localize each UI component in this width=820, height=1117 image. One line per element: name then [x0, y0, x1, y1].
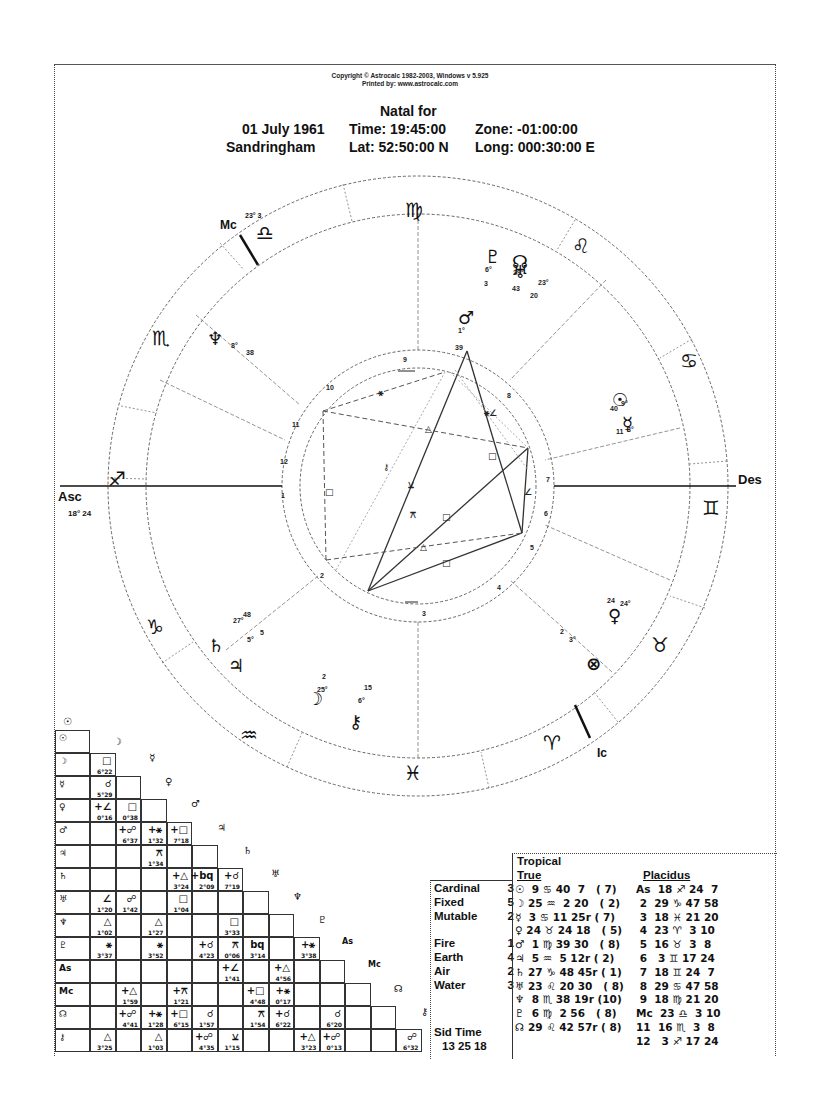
grid-header-moon: ☽ — [113, 736, 122, 747]
earth-label: Earth — [434, 951, 463, 965]
aspect-symbol: +☍ — [195, 1031, 214, 1042]
aspect-symbol: +☍ — [322, 1031, 341, 1042]
svg-text:24°: 24° — [620, 600, 631, 607]
svg-text:12: 12 — [280, 458, 288, 465]
aspect-grid-row-label: ♃ — [55, 845, 90, 868]
house-cusp-row: Mc 23 ♎ 3 10 — [636, 1007, 721, 1019]
house-cusp-row: 2 29 ♑ 47 58 — [636, 897, 719, 909]
aspect-grid-cell: ☍1°42 — [116, 891, 142, 914]
row-glyph: ♆ — [59, 917, 67, 927]
svg-text:4: 4 — [497, 584, 501, 591]
planet-position-row: ♂ 1 ♍ 39 30 ( 8) — [515, 938, 620, 950]
aspect-grid-row-label: ⚷ — [55, 1029, 90, 1052]
aspect-grid-cell: △1°02 — [90, 914, 116, 937]
aspect-orb: 7°19 — [224, 883, 240, 890]
aspect-symbol: ⚹ — [106, 939, 112, 951]
aspect-orb: 1°15 — [224, 1044, 240, 1051]
svg-text:⚺: ⚺ — [408, 480, 414, 490]
aspect-grid-cell — [167, 937, 193, 960]
aspect-symbol: ☍ — [407, 1031, 417, 1042]
aspect-symbol: +□ — [170, 1008, 188, 1019]
aspect-grid-row-label: ☊ — [55, 1006, 90, 1029]
aspect-grid-cell — [167, 845, 193, 868]
aspect-grid-cell: bq3°14 — [243, 937, 269, 960]
planet-glyphs: ♇ ☊ ♅ ♂ ♆ ☉ ☿ ♀ ⊗ ♄ ♃ ☽ ⚷ — [207, 246, 633, 732]
aspect-orb: 1°59 — [122, 998, 138, 1005]
aspect-grid-cell: ☌5°29 — [90, 776, 116, 799]
aspect-grid-cell: ☌6°20 — [320, 1006, 346, 1029]
aspect-orb: 4°48 — [250, 998, 266, 1005]
svg-text:2: 2 — [320, 572, 324, 579]
aspect-orb: 3°33 — [224, 929, 240, 936]
node-type: True — [517, 869, 541, 881]
aspect-grid-row-label: ♀ — [55, 799, 90, 822]
aspect-grid-cell: +⚹1°28 — [141, 1006, 167, 1029]
aspect-grid-cell: +⚹1°32 — [141, 822, 167, 845]
aspect-orb: 2°09 — [199, 883, 215, 890]
svg-text:♊: ♊ — [702, 496, 720, 520]
aspect-orb: 0°13 — [326, 1044, 342, 1051]
svg-text:□: □ — [442, 558, 451, 568]
aspect-symbol: +bq — [191, 870, 214, 881]
aspect-grid-cell: □6°22 — [90, 753, 116, 776]
svg-text:♄: ♄ — [208, 635, 224, 656]
aspect-symbol: ☌ — [207, 1008, 214, 1019]
svg-text:2: 2 — [560, 628, 564, 635]
grid-header-uranus: ♅ — [271, 868, 280, 879]
aspect-orb: 1°32 — [148, 837, 164, 844]
grid-header-mc: Mc — [368, 960, 381, 969]
aspect-orb: 1°21 — [173, 998, 189, 1005]
planet-position-row: ♃ 5 ♒ 5 12r ( 2) — [515, 952, 614, 964]
svg-text:□: □ — [325, 487, 334, 497]
aspect-symbol: ⚻ — [258, 1008, 265, 1020]
aspect-symbol: ☌ — [105, 778, 112, 789]
aspect-grid-cell — [192, 960, 218, 983]
svg-text:♃: ♃ — [228, 655, 244, 676]
svg-text:48: 48 — [243, 611, 251, 618]
aspect-grid-cell — [294, 1006, 320, 1029]
aspect-orb: 1°57 — [199, 1021, 215, 1028]
aspect-symbol: +∠ — [222, 962, 239, 973]
aspect-grid-cell — [141, 799, 167, 822]
aspect-grid-cell: ∠1°20 — [90, 891, 116, 914]
aspect-grid-cell: +△3°24 — [167, 868, 193, 891]
planet-position-row: ☽ 25 ♒ 2 20 ( 2) — [515, 897, 620, 909]
grid-header-venus: ♀ — [165, 776, 172, 787]
aspect-symbol: ∠ — [103, 893, 112, 904]
svg-text:23°: 23° — [538, 279, 549, 286]
aspect-orb: 0°16 — [97, 814, 113, 821]
aspect-grid-cell: +⚻1°21 — [167, 983, 193, 1006]
row-glyph: ♂ — [59, 825, 67, 835]
aspect-orb: 1°02 — [97, 929, 113, 936]
sid-time-label: Sid Time — [434, 1026, 482, 1038]
aspect-orb: 1°41 — [224, 975, 240, 982]
mc-label: Mc — [220, 218, 237, 232]
aspect-grid-cell: ⚹3°52 — [141, 937, 167, 960]
planet-position-row: ♇ 6 ♍ 2 56 ( 8) — [515, 1007, 617, 1019]
svg-text:♒: ♒ — [240, 723, 258, 747]
aspect-symbol: ⚹ — [157, 939, 163, 951]
asc-label: Asc — [58, 489, 82, 504]
svg-text:♂: ♂ — [458, 307, 474, 328]
aspect-grid-cell: △3°25 — [90, 1029, 116, 1052]
fire-label: Fire — [434, 937, 455, 951]
svg-text:♍: ♍ — [405, 198, 423, 222]
aspect-grid-cell — [192, 914, 218, 937]
row-glyph: ♇ — [59, 940, 67, 950]
aspect-symbol: +☍ — [118, 824, 137, 835]
ic-label: Ic — [597, 746, 607, 760]
asc-degree: 18° 24 — [68, 509, 92, 518]
house-cusp-row: As 18 ♐ 24 7 — [636, 883, 718, 895]
grid-header-jupiter: ♃ — [217, 822, 226, 833]
planet-position-row: ♆ 8 ♏ 38 19r (10) — [515, 993, 622, 1005]
mc-degree: 23° 3 — [245, 212, 262, 219]
svg-text:△: △ — [425, 424, 432, 434]
planet-position-row: ♀ 24 ♉ 24 18 ( 5) — [515, 924, 622, 936]
aspect-grid-cell: +☌7°19 — [218, 868, 244, 891]
svg-text:♓: ♓ — [404, 761, 422, 785]
house-cusp-row: 6 3 ♊ 17 24 — [636, 952, 715, 964]
house-cusp-row: 12 3 ♐ 17 24 — [636, 1035, 719, 1047]
house-number-ring-outer — [282, 350, 554, 622]
aspect-symbol: □ — [230, 916, 239, 927]
aspect-grid-cell — [218, 891, 244, 914]
